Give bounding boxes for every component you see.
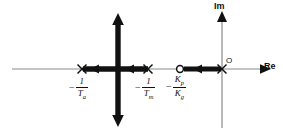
fraction-kp-over-kg: Kp Kg: [173, 75, 186, 101]
fraction-1-over-tm: 1 Tm: [142, 77, 156, 100]
fraction-denominator: Kg: [173, 87, 186, 100]
imaginary-axis-arrowhead: [217, 11, 227, 22]
zero-label-kp-kg: − Kp Kg: [166, 75, 186, 101]
locus-arrow-up: [112, 13, 124, 25]
zero-marker-kp-kg: [177, 66, 184, 73]
root-locus-canvas: [0, 0, 283, 134]
origin-label: O: [226, 57, 232, 65]
locus-arrow-left-2: [125, 65, 134, 74]
pole-label-ta: − 1 Ta: [69, 77, 88, 100]
numerator-subscript: p: [181, 79, 184, 86]
pole-label-tm: − 1 Tm: [135, 77, 155, 100]
fraction-denominator: Ta: [76, 87, 88, 100]
minus-sign: −: [135, 83, 141, 94]
locus-real-right-group: [184, 65, 221, 74]
locus-arrow-down: [112, 115, 124, 127]
fraction-numerator: Kp: [173, 75, 186, 87]
real-axis-label: Re: [264, 62, 276, 71]
fraction-numerator: 1: [144, 77, 153, 87]
zero-markers-group: [177, 66, 184, 73]
locus-arrow-left-1: [90, 65, 99, 74]
fraction-numerator: 1: [78, 77, 87, 87]
imaginary-axis-label: Im: [214, 2, 225, 11]
denominator-subscript: m: [149, 93, 154, 100]
fraction-1-over-ta: 1 Ta: [76, 77, 88, 100]
denominator-subscript: a: [83, 93, 86, 100]
locus-arrow-left-3: [193, 65, 202, 74]
minus-sign: −: [69, 83, 75, 94]
fraction-denominator: Tm: [142, 87, 156, 100]
denominator-subscript: g: [181, 93, 184, 100]
minus-sign: −: [166, 82, 172, 93]
root-locus-figure: Im Re O − 1 Ta − 1 Tm − Kp Kg: [0, 0, 283, 134]
